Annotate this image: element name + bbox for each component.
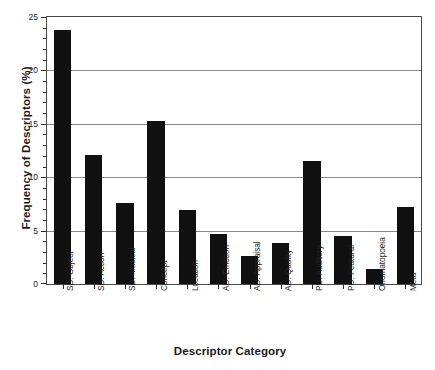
- y-axis-minor-tick: [43, 60, 46, 61]
- x-axis-title: Descriptor Category: [40, 345, 420, 357]
- y-axis-minor-tick: [43, 209, 46, 210]
- x-axis-tick: [156, 284, 157, 289]
- y-axis-tick-label: 15: [29, 120, 38, 129]
- x-axis-tick-label: PD: Featural: [347, 245, 356, 291]
- y-axis-tick: [41, 177, 46, 178]
- y-axis-minor-tick: [43, 252, 46, 253]
- y-axis-minor-tick: [43, 38, 46, 39]
- x-axis-tick: [187, 284, 188, 289]
- x-axis-tick: [218, 284, 219, 289]
- y-axis-minor-tick: [43, 241, 46, 242]
- y-axis-minor-tick: [43, 145, 46, 146]
- y-axis-minor-tick: [43, 102, 46, 103]
- x-axis-tick-label: Onomatopoeia: [378, 237, 387, 291]
- y-axis-minor-tick: [43, 156, 46, 157]
- x-axis-tick-label: AD: Appraisal: [253, 241, 262, 291]
- y-axis-minor-tick: [43, 273, 46, 274]
- y-axis-tick: [41, 70, 46, 71]
- x-axis-tick: [343, 284, 344, 289]
- y-axis-minor-tick: [43, 49, 46, 50]
- y-gridline: [47, 231, 421, 232]
- x-axis-tick-label: SD: Object: [66, 251, 75, 291]
- y-axis-tick: [41, 124, 46, 125]
- x-axis-tick: [405, 284, 406, 289]
- y-axis-title: Frequency of Descriptors (%): [20, 28, 32, 268]
- y-axis-tick: [41, 283, 46, 284]
- x-axis-tick-label: Meta: [409, 273, 418, 291]
- y-gridline: [47, 124, 421, 125]
- y-axis-minor-tick: [43, 188, 46, 189]
- y-gridline: [47, 177, 421, 178]
- bar: [54, 30, 71, 284]
- y-axis-tick-label: 20: [29, 66, 38, 75]
- plot-area: 0510152025SD: ObjectSD: ActionSD: Musica…: [46, 16, 422, 285]
- x-axis-tick-label: AD: Quality: [284, 250, 293, 291]
- x-axis-tick: [281, 284, 282, 289]
- y-axis-tick: [41, 231, 46, 232]
- y-axis-minor-tick: [43, 28, 46, 29]
- x-axis-tick: [94, 284, 95, 289]
- y-axis-minor-tick: [43, 199, 46, 200]
- x-axis-tick: [125, 284, 126, 289]
- y-axis-tick-label: 5: [33, 226, 38, 235]
- bar-chart-figure: Frequency of Descriptors (%) 0510152025S…: [0, 0, 435, 370]
- x-axis-tick-label: AD: Emotion: [222, 245, 231, 291]
- x-axis-tick: [312, 284, 313, 289]
- x-axis-tick: [250, 284, 251, 289]
- x-axis-tick-label: PD: Auditory: [315, 245, 324, 291]
- y-axis-minor-tick: [43, 81, 46, 82]
- y-axis-minor-tick: [43, 167, 46, 168]
- x-axis-tick-label: Concept: [160, 261, 169, 292]
- x-axis-tick: [374, 284, 375, 289]
- x-axis-tick: [63, 284, 64, 289]
- y-gridline: [47, 70, 421, 71]
- y-axis-minor-tick: [43, 263, 46, 264]
- y-axis-tick-label: 0: [33, 280, 38, 289]
- y-axis-minor-tick: [43, 92, 46, 93]
- x-axis-tick-label: SD: Musical: [128, 247, 137, 291]
- x-axis-tick-label: SD: Action: [97, 253, 106, 291]
- y-axis-minor-tick: [43, 220, 46, 221]
- y-axis-minor-tick: [43, 113, 46, 114]
- y-axis-tick-label: 10: [29, 173, 38, 182]
- y-axis-minor-tick: [43, 134, 46, 135]
- y-axis-tick: [41, 17, 46, 18]
- y-axis-tick-label: 25: [29, 13, 38, 22]
- x-axis-tick-label: Location: [191, 260, 200, 291]
